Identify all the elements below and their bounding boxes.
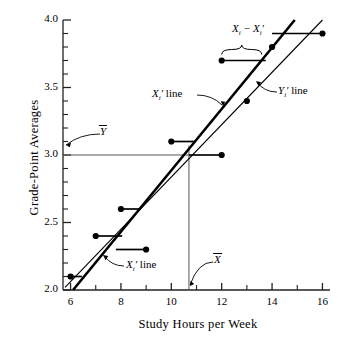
y-tick-label: 2.0 xyxy=(24,282,58,294)
x-tick-label: 14 xyxy=(257,295,287,307)
x-tick-label: 10 xyxy=(156,295,186,307)
x-tick-label: 12 xyxy=(207,295,237,307)
x-mean-glyph: X xyxy=(213,253,222,266)
resid-x1: X xyxy=(232,22,239,34)
data-point xyxy=(269,44,275,50)
residual-brace-icon xyxy=(222,45,262,55)
resid-minus: − xyxy=(241,22,253,34)
xi-line-label-upper: Xi′ line xyxy=(152,87,182,102)
x-mean-arrowhead xyxy=(190,281,194,286)
data-point xyxy=(244,98,250,104)
xi-line-label-lower: Xi′ line xyxy=(126,258,156,273)
xi-symbol: X xyxy=(152,87,159,99)
resid-prime: ′ xyxy=(262,22,264,34)
y-mean-label: Y xyxy=(99,125,107,138)
x-mean-label: X xyxy=(213,253,222,266)
x-tick-label: 16 xyxy=(307,295,337,307)
y-tick-label: 3.0 xyxy=(24,147,58,159)
data-point xyxy=(219,57,225,63)
yi-regression-line xyxy=(65,20,322,287)
xi-line-leader-upper xyxy=(197,95,222,105)
y-tick-label: 2.5 xyxy=(24,215,58,227)
yi-line-word: line xyxy=(288,84,307,96)
resid-x2: X xyxy=(253,22,260,34)
y-mean-glyph: Y xyxy=(99,125,107,138)
data-point xyxy=(319,30,325,36)
y-tick-label: 3.5 xyxy=(24,80,58,92)
xi-line-word-lower: line xyxy=(137,258,156,270)
data-point xyxy=(219,152,225,158)
yi-line-label: Yi′ line xyxy=(278,84,308,99)
data-point xyxy=(67,273,73,279)
data-point xyxy=(143,246,149,252)
y-tick-label: 4.0 xyxy=(24,12,58,24)
data-point xyxy=(168,138,174,144)
x-tick-label: 6 xyxy=(56,295,86,307)
xi-symbol-lower: X xyxy=(126,258,133,270)
xi-line-word: line xyxy=(163,87,182,99)
data-point xyxy=(118,206,124,212)
x-tick-label: 8 xyxy=(106,295,136,307)
y-mean-leader xyxy=(66,134,100,145)
x-mean-leader xyxy=(190,262,213,285)
data-point xyxy=(93,233,99,239)
residual-expression-label: Xi−Xi′ xyxy=(232,22,264,37)
